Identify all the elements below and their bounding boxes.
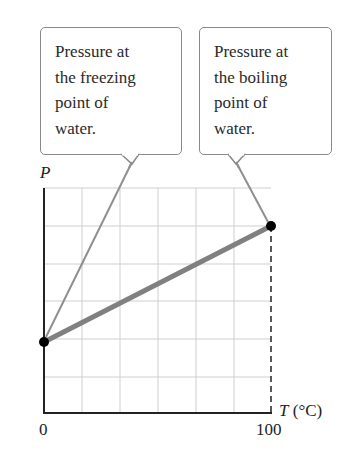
y-axis-label: P: [40, 163, 50, 183]
x-axis-label: T (°C): [279, 401, 322, 421]
x-axis-variable: T: [279, 401, 288, 420]
x-axis-unit: (°C): [293, 401, 322, 420]
callout-tails: [0, 0, 354, 461]
x-tick-0: 0: [39, 420, 48, 440]
x-tick-100: 100: [256, 420, 282, 440]
